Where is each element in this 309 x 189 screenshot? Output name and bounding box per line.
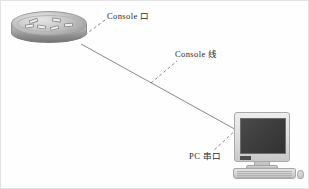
keyboard-row — [237, 173, 292, 174]
router-device[interactable] — [11, 11, 87, 53]
console-port-leader-line — [85, 20, 105, 35]
router-top-face — [11, 11, 87, 36]
mouse — [297, 170, 304, 179]
monitor-case — [234, 112, 290, 162]
label-pc-serial-port: PC 串口 — [189, 152, 222, 161]
keyboard-row — [237, 171, 292, 172]
keyboard-row — [237, 175, 292, 176]
desktop-computer[interactable] — [232, 112, 306, 184]
keyboard-row — [237, 177, 292, 178]
diagram-canvas: Console 口 Console 线 PC 串口 — [0, 0, 309, 189]
monitor-badge — [240, 156, 251, 160]
label-console-cable: Console 线 — [175, 50, 218, 59]
keyboard — [233, 168, 296, 179]
monitor-screen — [240, 118, 286, 154]
console-cable-leader-line — [151, 61, 177, 83]
label-console-port: Console 口 — [107, 12, 150, 21]
